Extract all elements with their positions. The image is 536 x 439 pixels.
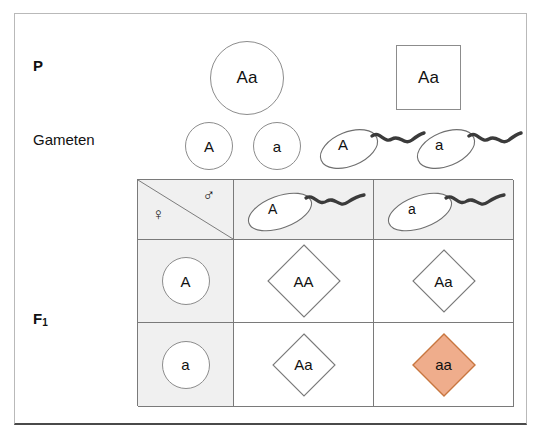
- punnett-column-header-A: A: [234, 180, 374, 240]
- sperm-cell-icon: A: [318, 120, 428, 174]
- egg-cell-icon: a: [253, 122, 301, 170]
- sperm-allele-label: A: [338, 136, 348, 153]
- female-parent-circle: Aa: [210, 41, 284, 115]
- egg-cell-icon: a: [162, 341, 210, 389]
- sperm-cell-icon: a: [415, 120, 525, 174]
- f1-letter: F: [33, 310, 42, 327]
- sperm-allele-label: a: [435, 136, 443, 153]
- punnett-cell-AA: AA: [234, 240, 374, 323]
- genotype-label: aa: [435, 356, 452, 373]
- punnett-cell-aa: aa: [374, 323, 514, 407]
- f1-subscript: 1: [42, 317, 48, 328]
- punnett-cell-Aa-bottom: Aa: [234, 323, 374, 407]
- sperm-cell-icon: a: [384, 188, 512, 232]
- generation-label-f1: F1: [33, 310, 48, 328]
- genotype-label: Aa: [434, 273, 452, 290]
- column-header-allele-label: A: [268, 201, 277, 217]
- sperm-cell-icon: A: [244, 188, 372, 232]
- punnett-row-header-a: a: [138, 323, 234, 407]
- genotype-label: Aa: [294, 356, 312, 373]
- punnett-column-header-a: a: [374, 180, 514, 240]
- male-symbol-icon: ♂: [202, 187, 215, 204]
- generation-label-p: P: [33, 57, 43, 74]
- male-parent-square: Aa: [396, 45, 461, 110]
- punnett-corner-cell: ♀ ♂: [138, 180, 234, 240]
- punnett-row-header-A: A: [138, 240, 234, 323]
- female-symbol-icon: ♀: [152, 206, 165, 223]
- punnett-cell-Aa-top: Aa: [374, 240, 514, 323]
- genotype-diamond: Aa: [272, 333, 336, 397]
- genotype-label: AA: [293, 273, 313, 290]
- egg-cell-icon: A: [162, 257, 210, 305]
- egg-cell-icon: A: [185, 122, 233, 170]
- column-header-allele-label: a: [408, 201, 416, 217]
- punnett-square: ♀ ♂ A a A: [137, 179, 513, 406]
- genotype-diamond: AA: [267, 244, 341, 318]
- genetics-cross-diagram: P Gameten F1 Aa Aa A a A a ♀ ♂: [14, 13, 527, 425]
- gametes-row-label: Gameten: [33, 131, 95, 148]
- genotype-diamond-highlighted: aa: [412, 333, 476, 397]
- genotype-diamond: Aa: [412, 249, 476, 313]
